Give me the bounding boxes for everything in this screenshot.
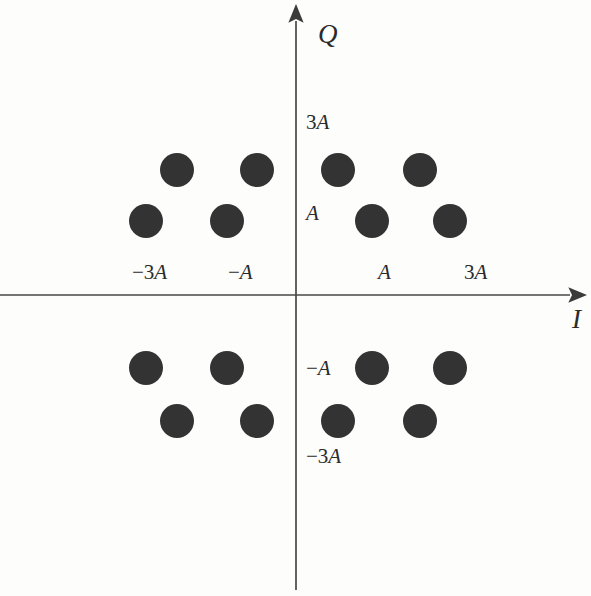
- y-axis-tick-label: A: [306, 203, 319, 224]
- x-axis-tick-label: −3A: [132, 262, 167, 283]
- constellation-point: [129, 351, 163, 385]
- constellation-point: [210, 204, 244, 238]
- y-axis-tick-label: −3A: [306, 446, 341, 467]
- constellation-point: [355, 351, 389, 385]
- constellation-point: [433, 351, 467, 385]
- constellation-point: [210, 351, 244, 385]
- constellation-point: [355, 204, 389, 238]
- constellation-point: [240, 153, 274, 187]
- constellation-point: [403, 153, 437, 187]
- constellation-point: [321, 404, 355, 438]
- constellation-point: [240, 404, 274, 438]
- plot-area: [0, 0, 591, 596]
- constellation-point: [160, 153, 194, 187]
- y-axis-tick-label: 3A: [306, 112, 329, 133]
- x-axis-name-label: I: [572, 306, 581, 333]
- constellation-diagram: Q I −3A−AA3A3AA−A−3A: [0, 0, 591, 596]
- y-axis-name-label: Q: [318, 21, 338, 48]
- constellation-point: [160, 404, 194, 438]
- x-axis-tick-label: A: [378, 262, 391, 283]
- x-axis-tick-label: −A: [228, 262, 253, 283]
- constellation-point: [433, 204, 467, 238]
- constellation-point: [321, 153, 355, 187]
- constellation-point: [129, 204, 163, 238]
- constellation-point: [403, 404, 437, 438]
- x-axis-tick-label: 3A: [464, 262, 487, 283]
- y-axis-tick-label: −A: [306, 358, 331, 379]
